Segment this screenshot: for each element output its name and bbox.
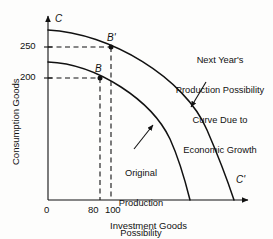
data-point-b: [98, 76, 103, 81]
axis-label-c-prime: C': [236, 175, 245, 186]
outer-annotation-line-2: Production Possibility: [170, 85, 270, 95]
y-axis-title: Consumption Goods: [11, 78, 21, 165]
data-point-b-prime: [109, 45, 114, 50]
x-tick-label-80: 80: [88, 205, 98, 215]
inner-annotation-line-2: Production: [110, 198, 172, 208]
inner-curve-annotation: Original Production Possibility Curve: [110, 148, 172, 239]
outer-annotation-line-4: Economic Growth: [170, 145, 270, 155]
ppf-chart-figure: 250 200 0 80 100 C C' B' B Investment Go…: [0, 0, 273, 239]
outer-annotation-line-1: Next Year's: [170, 55, 270, 65]
axis-label-c: C: [55, 14, 62, 25]
x-tick-label-0: 0: [44, 205, 49, 215]
point-label-b: B: [95, 64, 102, 75]
inner-annotation-line-1: Original: [110, 168, 172, 178]
point-label-b-prime: B': [107, 33, 116, 44]
inner-annotation-arrow: [134, 125, 153, 149]
inner-annotation-line-3: Possibility: [110, 228, 172, 238]
outer-curve-annotation: Next Year's Production Possibility Curve…: [170, 35, 270, 175]
y-tick-label-200: 200: [20, 72, 36, 82]
outer-annotation-line-3: Curve Due to: [170, 115, 270, 125]
y-tick-label-250: 250: [20, 41, 36, 51]
